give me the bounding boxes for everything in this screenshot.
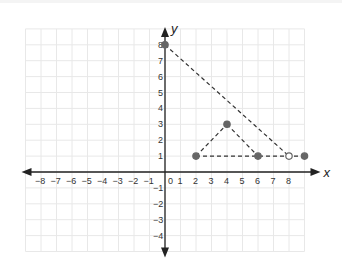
x-tick-label: −8 bbox=[35, 176, 45, 186]
x-axis-arrow-left-icon bbox=[22, 168, 32, 176]
x-tick-label: 0 bbox=[168, 176, 173, 186]
y-tick-label: −1 bbox=[153, 183, 163, 193]
x-axis-arrow-right-icon bbox=[311, 168, 321, 176]
closed-point bbox=[162, 42, 168, 48]
x-axis-label: x bbox=[323, 165, 331, 180]
y-tick-label: −3 bbox=[153, 215, 163, 225]
x-tick-label: 3 bbox=[209, 176, 214, 186]
y-tick-label: 3 bbox=[158, 119, 163, 129]
x-tick-label: 7 bbox=[271, 176, 276, 186]
x-tick-label: 5 bbox=[240, 176, 245, 186]
y-tick-label: 6 bbox=[158, 72, 163, 82]
y-tick-label: −4 bbox=[153, 231, 163, 241]
x-tick-label: −4 bbox=[97, 176, 107, 186]
y-tick-label: 4 bbox=[158, 103, 163, 113]
y-tick-label: 2 bbox=[158, 135, 163, 145]
y-axis-arrow-down-icon bbox=[161, 248, 169, 258]
y-tick-label: 1 bbox=[158, 151, 163, 161]
open-point bbox=[286, 153, 292, 159]
closed-point bbox=[255, 153, 261, 159]
x-tick-label: −3 bbox=[113, 176, 123, 186]
coordinate-plane: xy−8−7−6−5−4−3−2−101234567887654321−1−2−… bbox=[0, 0, 342, 279]
y-tick-label: 7 bbox=[158, 56, 163, 66]
x-tick-label: 2 bbox=[193, 176, 198, 186]
closed-point bbox=[301, 153, 307, 159]
x-tick-label: 4 bbox=[224, 176, 229, 186]
x-tick-label: 8 bbox=[286, 176, 291, 186]
y-tick-label: −2 bbox=[153, 199, 163, 209]
closed-point bbox=[193, 153, 199, 159]
x-tick-label: 1 bbox=[178, 176, 183, 186]
x-tick-label: −7 bbox=[51, 176, 61, 186]
x-tick-label: −2 bbox=[128, 176, 138, 186]
x-tick-label: 6 bbox=[255, 176, 260, 186]
x-tick-label: −5 bbox=[82, 176, 92, 186]
y-tick-label: 5 bbox=[158, 88, 163, 98]
closed-point bbox=[224, 121, 230, 127]
x-tick-label: −6 bbox=[66, 176, 76, 186]
